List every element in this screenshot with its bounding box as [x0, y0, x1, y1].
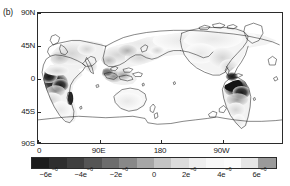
- cb-mantissa-1: −4e: [75, 170, 87, 179]
- y-tick-label-45s: 45S: [1, 108, 35, 116]
- cb-exponent-4: −6: [190, 166, 196, 172]
- x-tick-label-90e: 90E: [92, 146, 106, 155]
- colorbar-tick-label: 2e−6: [182, 170, 196, 179]
- cb-mantissa-3: 0: [152, 170, 156, 179]
- colorbar-band-8: [171, 158, 188, 168]
- cb-mantissa-6: 6e: [252, 170, 260, 179]
- y-tick-label-90n: 90N: [1, 9, 35, 17]
- cb-exponent-5: −6: [225, 166, 231, 172]
- x-tick-label-90w: 90W: [214, 146, 230, 155]
- colorbar-tick-label: 0: [152, 170, 156, 179]
- colorbar-gradient: [31, 157, 277, 169]
- cb-mantissa-5: 4e: [217, 170, 225, 179]
- colorbar-tick-label: −6e−6: [39, 170, 57, 179]
- cb-exponent-6: −6: [260, 166, 266, 172]
- cb-exponent-2: −6: [122, 166, 128, 172]
- y-tick-mark-90n: [38, 13, 41, 14]
- x-tick-mark-90w: [223, 140, 224, 143]
- colorbar-tick-labels: −6e−6 −4e−6 −2e−6 0 2e−6 4e−6 6e−6: [31, 170, 277, 184]
- colorbar-band-6: [137, 158, 154, 168]
- colorbar: [31, 157, 277, 169]
- colorbar-band-4: [102, 158, 119, 168]
- colorbar-tick-label: 4e−6: [217, 170, 231, 179]
- colorbar-tick-label: 6e−6: [252, 170, 266, 179]
- x-tick-mark-90e: [100, 140, 101, 143]
- y-tick-label-90s: 90S: [1, 140, 35, 148]
- colorbar-band-2: [67, 158, 84, 168]
- colorbar-band-10: [206, 158, 223, 168]
- y-tick-mark-45s: [38, 112, 41, 113]
- cb-mantissa-2: −2e: [110, 170, 122, 179]
- y-tick-label-0: 0: [1, 75, 35, 83]
- y-axis-labels: 90N 45N 0 45S 90S: [0, 0, 35, 186]
- cb-exponent-1: −6: [87, 166, 93, 172]
- colorbar-band-12: [241, 158, 258, 168]
- y-tick-mark-0: [38, 79, 41, 80]
- cb-mantissa-4: 2e: [182, 170, 190, 179]
- world-map-heatmap: [38, 13, 282, 143]
- cb-exponent-0: −6: [52, 166, 58, 172]
- y-tick-mark-45n: [38, 46, 41, 47]
- x-tick-label-180: 180: [154, 146, 167, 155]
- figure-panel-b: (b) 90N 45N 0 45S 90S: [0, 0, 290, 186]
- y-tick-mark-90s: [38, 142, 41, 143]
- colorbar-tick-label: −4e−6: [75, 170, 93, 179]
- x-tick-label-0: 0: [37, 146, 41, 155]
- map-plot-area: [37, 12, 283, 144]
- y-tick-label-45n: 45N: [1, 42, 35, 50]
- colorbar-band-0: [32, 158, 49, 168]
- cb-mantissa-0: −6e: [39, 170, 51, 179]
- x-tick-mark-180: [161, 140, 162, 143]
- colorbar-tick-label: −2e−6: [110, 170, 128, 179]
- colorbar-band-7: [154, 158, 171, 168]
